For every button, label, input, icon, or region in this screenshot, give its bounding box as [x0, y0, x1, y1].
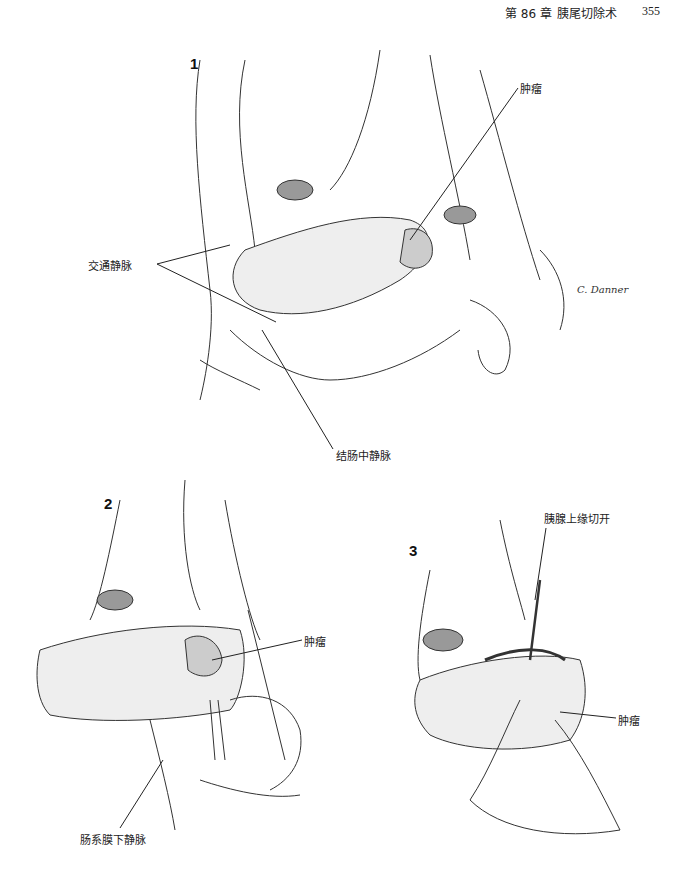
artist-signature: C. Danner — [577, 284, 628, 295]
label-inferior-mesenteric-vein: 肠系膜下静脉 — [80, 831, 146, 847]
label-superior-border-incision: 胰腺上缘切开 — [544, 510, 610, 526]
label-tumor-fig2: 肿瘤 — [304, 633, 326, 649]
label-middle-colic-vein: 结肠中静脉 — [336, 447, 391, 463]
figure-1-illustration — [196, 50, 564, 400]
surgical-illustrations — [0, 0, 692, 882]
figure-2-number: 2 — [104, 495, 112, 512]
figure-2-illustration — [37, 480, 301, 830]
figure-1-number: 1 — [190, 55, 198, 72]
label-tumor-fig3: 肿瘤 — [618, 712, 640, 728]
figure-3-number: 3 — [409, 542, 417, 559]
figure-3-illustration — [415, 520, 620, 834]
label-communicating-veins: 交通静脉 — [88, 257, 132, 273]
label-tumor-fig1: 肿瘤 — [520, 80, 542, 96]
